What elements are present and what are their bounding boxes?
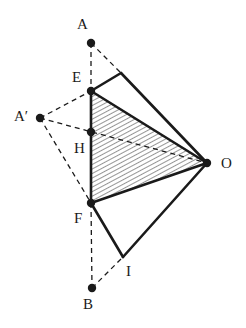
point-label-i: I (126, 263, 131, 279)
point-label-e: E (72, 69, 81, 85)
point-label-a: A (77, 16, 88, 32)
point-label-ap: A′ (14, 108, 28, 124)
point-label-b: B (83, 296, 93, 312)
vertex-dot-ap (36, 114, 44, 122)
vertex-dot-h (87, 128, 95, 136)
vertex-dot-f (87, 199, 95, 207)
geometry-canvas: AEA′HFOIB (0, 0, 246, 328)
vertex-dot-e (87, 87, 95, 95)
point-label-h: H (74, 140, 85, 156)
vertex-dot-o (203, 159, 211, 167)
point-label-o: O (221, 155, 232, 171)
vertex-dot-a (87, 39, 95, 47)
point-label-f: F (74, 210, 82, 226)
vertex-dot-b (88, 284, 96, 292)
geometry-figure: AEA′HFOIB (0, 0, 246, 328)
